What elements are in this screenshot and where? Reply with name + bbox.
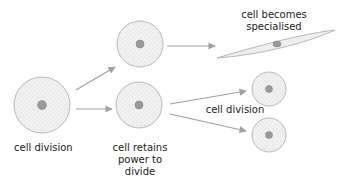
label-cell-retains-power: cell retains power to divide: [105, 142, 175, 178]
label-line: specialised: [234, 21, 314, 33]
daughter-cell-upper: [117, 21, 163, 67]
nucleus-icon: [266, 132, 273, 139]
arrow-icon: [170, 114, 246, 131]
nucleus-icon: [136, 40, 144, 48]
label-cell-division: cell division: [14, 142, 72, 154]
label-line: cell becomes: [234, 9, 314, 21]
label-second-cell-division: cell division: [200, 104, 270, 116]
nucleus-icon: [273, 41, 281, 47]
nucleus-icon: [135, 101, 143, 109]
specialised-cell: [217, 30, 335, 58]
label-line: cell retains: [105, 142, 175, 154]
nucleus-icon: [266, 86, 273, 93]
label-line: power to: [105, 154, 175, 166]
nucleus-icon: [38, 101, 47, 110]
granddaughter-cell-lower: [252, 118, 286, 152]
arrow-icon: [76, 67, 115, 90]
cell-differentiation-diagram: cell division cell becomes specialised c…: [0, 0, 344, 183]
parent-cell: [14, 77, 70, 133]
label-cell-specialised: cell becomes specialised: [234, 9, 314, 33]
granddaughter-cell-upper: [252, 72, 286, 106]
daughter-cell-lower: [116, 82, 162, 128]
arrow-icon: [170, 91, 246, 104]
label-line: divide: [105, 166, 175, 178]
